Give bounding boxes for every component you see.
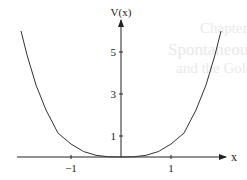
y-tick-label: 3	[111, 88, 117, 100]
y-axis-label: V(x)	[111, 6, 132, 19]
y-tick-label: 1	[111, 130, 117, 142]
axis-ticks: −11135	[65, 46, 174, 174]
x-tick-label: 1	[168, 162, 174, 174]
y-tick-label: 5	[111, 46, 117, 58]
x-axis-label: x	[231, 150, 237, 164]
x-tick-label: −1	[65, 162, 77, 174]
potential-plot: −11135 V(x) x	[0, 0, 247, 180]
